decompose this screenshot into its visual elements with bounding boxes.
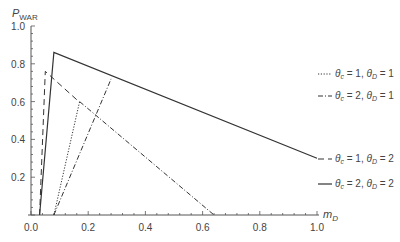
series-line-1 [54, 102, 80, 215]
x-tick-label: 0.8 [253, 222, 267, 233]
x-tick-label: 0.0 [24, 222, 38, 233]
series-line-2-extra [80, 102, 214, 215]
y-tick-label: 0.2 [11, 172, 25, 183]
legend-label-3: θc = 1, θD = 2 [335, 153, 394, 165]
series-line-3 [40, 71, 77, 215]
x-tick-label: 0.2 [81, 222, 95, 233]
y-tick-label: 0.4 [11, 134, 25, 145]
y-tick-label: 0.6 [11, 97, 25, 108]
legend-label-4: θc = 2, θD = 2 [335, 178, 394, 190]
series-line-2 [54, 79, 111, 215]
chart: 0.00.20.40.60.81.00.20.40.60.81.0PWARmD … [0, 0, 400, 242]
y-tick-label: 0.8 [11, 59, 25, 70]
x-tick-label: 0.6 [196, 222, 210, 233]
legend-label-1: θc = 1, θD = 1 [335, 68, 394, 80]
x-tick-label: 1.0 [310, 222, 324, 233]
x-tick-label: 0.4 [138, 222, 152, 233]
legend: θc = 1, θD = 1θc = 2, θD = 1θc = 1, θD =… [318, 68, 394, 190]
y-axis-title: PWAR [12, 7, 38, 22]
legend-label-2: θc = 2, θD = 1 [335, 90, 394, 102]
y-tick-label: 1.0 [11, 21, 25, 32]
x-axis-title: mD [323, 208, 338, 223]
series-lines [40, 52, 317, 215]
series-line-4 [40, 52, 317, 215]
